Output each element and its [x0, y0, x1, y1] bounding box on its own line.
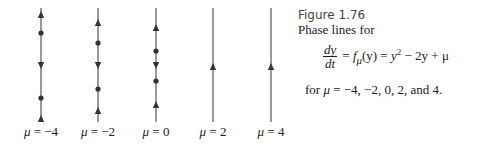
exponent: 2: [397, 47, 402, 57]
mu-value: = 4: [264, 124, 284, 139]
mu-value: = 2: [206, 124, 226, 139]
arrow-up-icon: [153, 24, 159, 31]
arrow-down-icon: [38, 62, 44, 69]
equals-sign: =: [342, 48, 349, 63]
parameter-values-text: for μ = −4, −2, 0, 2, and 4.: [305, 82, 442, 98]
arrow-up-icon: [210, 63, 216, 70]
equilibrium-dot-icon: [38, 30, 43, 35]
equilibrium-dot-icon: [95, 86, 100, 91]
phase-lines-diagram: μ = −4μ = −2μ = 0μ = 2μ = 4: [0, 0, 290, 144]
equilibrium-dot-icon: [153, 48, 158, 53]
equation: dy dt = fμ(y) = y2 − 2y + μ: [323, 43, 449, 70]
phase-line-label: μ = 2: [183, 124, 243, 140]
figure-caption: Figure 1.76 Phase lines for dy dt = fμ(y…: [298, 8, 482, 37]
phase-line: [210, 8, 216, 122]
equilibrium-dot-icon: [38, 95, 43, 100]
phase-line-label: μ = −4: [11, 124, 71, 140]
figure-title: Figure 1.76: [298, 8, 482, 22]
phase-line-label: μ = 4: [241, 124, 301, 140]
arrow-up-icon: [38, 115, 44, 122]
arrow-up-icon: [38, 11, 44, 18]
equation-rhs: = fμ(y) = y2 − 2y + μ: [342, 47, 449, 66]
fraction-denominator: dt: [325, 57, 335, 70]
derivative-fraction: dy dt: [323, 43, 337, 70]
phase-line-label: μ = 0: [126, 124, 186, 140]
arrow-up-icon: [95, 19, 101, 26]
arrow-up-icon: [95, 107, 101, 114]
phase-line: [268, 8, 274, 122]
mu-values: = −4, −2, 0, 2, and 4.: [333, 82, 442, 97]
arrow-up-icon: [268, 63, 274, 70]
for-prefix: for: [305, 82, 320, 97]
equilibrium-dot-icon: [153, 78, 158, 83]
equals-sign-2: =: [380, 48, 387, 63]
function-argument: (y): [362, 48, 377, 63]
mu-value: = −2: [87, 124, 115, 139]
arrow-up-icon: [153, 101, 159, 108]
mu-symbol: μ: [323, 82, 330, 97]
mu-value: = −4: [30, 124, 58, 139]
phase-line: [153, 8, 159, 122]
phase-line: [95, 8, 101, 122]
mu-value: = 0: [149, 124, 169, 139]
arrow-down-icon: [95, 62, 101, 69]
fraction-numerator: dy: [323, 43, 337, 57]
phase-line: [38, 8, 44, 122]
equilibrium-dot-icon: [95, 40, 100, 45]
phase-lines-svg: [0, 0, 290, 144]
phase-line-label: μ = −2: [68, 124, 128, 140]
equation-rest: − 2y + μ: [404, 48, 448, 63]
figure-subtitle: Phase lines for: [298, 22, 482, 37]
arrow-down-icon: [153, 62, 159, 69]
